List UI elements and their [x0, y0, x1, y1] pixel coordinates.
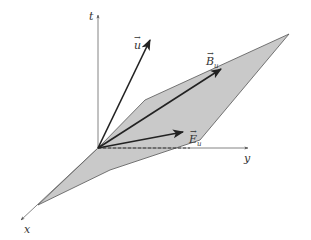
x-axis-label: x: [24, 223, 31, 236]
vector-u-label: u →: [134, 33, 141, 52]
y-axis-label: y: [243, 152, 251, 165]
shaded-plane: [38, 34, 289, 205]
svg-text:u: u: [197, 140, 202, 148]
svg-text:→: →: [190, 127, 197, 136]
svg-text:u: u: [214, 62, 219, 70]
t-axis-label: t: [89, 10, 94, 23]
svg-text:→: →: [134, 33, 141, 42]
spacetime-vector-diagram: t y x u → B u → E u →: [0, 0, 311, 240]
svg-text:→: →: [207, 49, 214, 58]
vector-b-label: B u →: [205, 49, 219, 70]
